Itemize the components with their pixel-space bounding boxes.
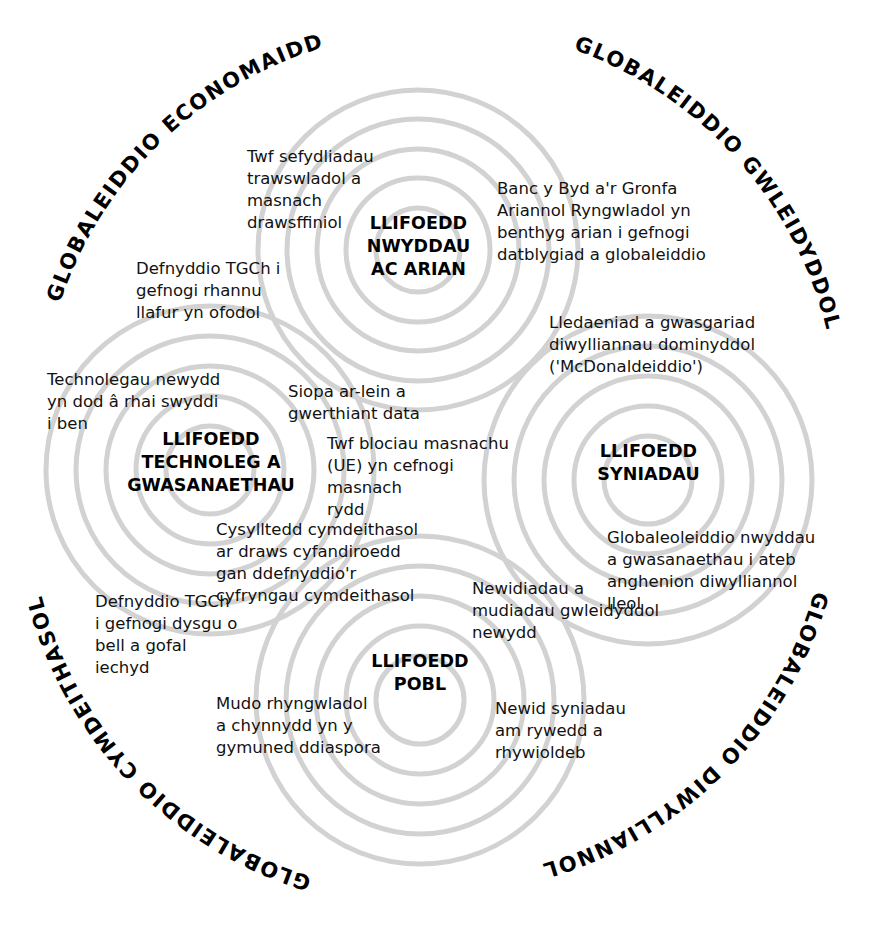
node-label-technoleg-a-gwasanaethau: LLIFOEDD TECHNOLEG A GWASANAETHAU: [121, 428, 301, 497]
item-defnyddio-tgch-rhannu-llafur: Defnyddio TGCh i gefnogi rhannu llafur y…: [136, 258, 311, 324]
item-mudo-rhyngwladol: Mudo rhyngwladol a chynnydd yn y gymuned…: [216, 693, 411, 759]
globalisation-diagram: GLOBALEIDDIO ECONOMAIDD GLOBALEIDDIO GWL…: [0, 0, 874, 926]
item-siopa-ar-lein: Siopa ar-lein a gwerthiant data: [288, 381, 458, 425]
item-twf-sefydliadau: Twf sefydliadau trawswladol a masnach dr…: [247, 146, 427, 234]
node-label-pobl: LLIFOEDD POBL: [356, 650, 484, 696]
item-newid-syniadau: Newid syniadau am rywedd a rhywioldeb: [495, 698, 655, 764]
item-twf-blociau-masnachu: Twf blociau masnachu (UE) yn cefnogi mas…: [327, 433, 532, 521]
item-technolegau-newydd: Technolegau newydd yn dod â rhai swyddi …: [47, 369, 252, 435]
item-lledaeniad-diwylliannau: Lledaeniad a gwasgariad diwylliannau dom…: [549, 312, 794, 378]
item-newidiadau-mudiadau: Newidiadau a mudiadau gwleidyddol newydd: [472, 578, 677, 644]
item-defnyddio-tgch-dysgu: Defnyddio TGCh i gefnogi dysgu o bell a …: [95, 591, 255, 679]
node-label-syniadau: LLIFOEDD SYNIADAU: [575, 440, 722, 486]
item-banc-y-byd: Banc y Byd a'r Gronfa Ariannol Ryngwlado…: [497, 178, 732, 266]
